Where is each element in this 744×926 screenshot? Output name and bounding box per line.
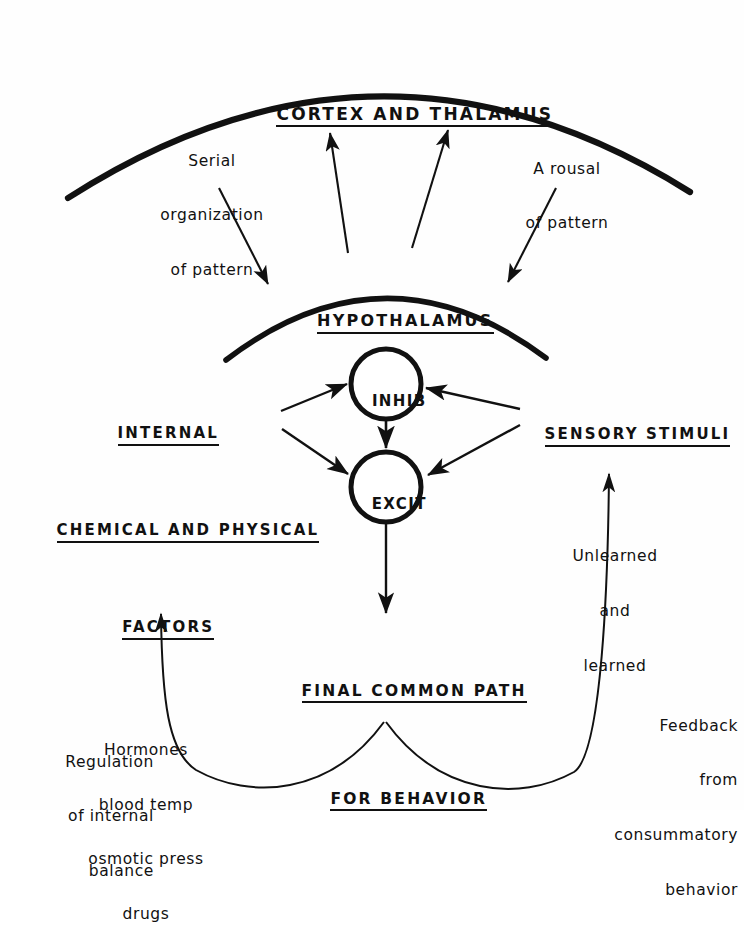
serial-organization-line-1: Serial	[132, 152, 292, 170]
arousal-line-1: A rousal	[487, 160, 647, 178]
serial-organization-line-2: organization	[132, 206, 292, 224]
internal-factors-line-3: FACTORS	[122, 619, 214, 640]
feedback-line-4: behavior	[578, 881, 738, 899]
feedback-line-1: Feedback	[578, 717, 738, 735]
feedback-line-2: from	[578, 771, 738, 789]
arousal-of-pattern-label: A rousal of pattern	[487, 123, 647, 269]
regulation-line-3: balance	[14, 862, 154, 880]
excit-node-text: EXCIT	[372, 495, 427, 513]
final-common-path-line-2: FOR BEHAVIOR	[330, 790, 487, 811]
internal-factors-heading-2: CHEMICAL AND PHYSICAL	[12, 505, 280, 561]
regulation-line-1: Regulation	[14, 753, 154, 771]
internal-factors-line-2: CHEMICAL AND PHYSICAL	[57, 522, 320, 543]
arrow-hypothalamus-to-cortex-right	[412, 130, 448, 248]
internal-factors-heading-1: INTERNAL	[12, 408, 280, 464]
final-common-path-line-1: FINAL COMMON PATH	[302, 682, 527, 703]
sensory-stimuli-line-3: learned	[500, 657, 730, 675]
inhib-node-text: INHIB	[372, 392, 427, 410]
inhib-node-label: INHIB	[336, 375, 436, 428]
final-common-path-block: FINAL COMMON PATH FOR BEHAVIOR	[256, 626, 516, 867]
hypothalamus-text: HYPOTHALAMUS	[317, 312, 493, 334]
sensory-stimuli-line-2: and	[500, 602, 730, 620]
feedback-from-consummatory-behavior-label: Feedback from consummatory behavior	[578, 680, 738, 926]
regulation-line-2: of internal	[14, 807, 154, 825]
final-common-path-heading-2: FOR BEHAVIOR	[256, 771, 516, 829]
serial-organization-line-3: of pattern	[132, 261, 292, 279]
sensory-stimuli-line-1: Unlearned	[500, 547, 730, 565]
hypothalamus-label: HYPOTHALAMUS	[286, 293, 486, 353]
arrow-hypothalamus-to-cortex-left	[330, 133, 348, 253]
arrow-internal-to-excit	[282, 429, 348, 474]
sensory-stimuli-heading: SENSORY STIMULI	[500, 409, 730, 465]
final-common-path-heading-1: FINAL COMMON PATH	[256, 664, 516, 722]
arousal-line-2: of pattern	[487, 214, 647, 232]
internal-factors-line-1: INTERNAL	[118, 425, 219, 446]
regulation-of-internal-balance-label: Regulation of internal balance	[14, 716, 154, 917]
internal-factors-heading-3: FACTORS	[12, 601, 280, 657]
serial-organization-label: Serial organization of pattern	[132, 115, 292, 316]
excit-node-label: EXCIT	[336, 478, 436, 531]
feedback-line-3: consummatory	[578, 826, 738, 844]
sensory-stimuli-heading-text: SENSORY STIMULI	[545, 426, 731, 447]
